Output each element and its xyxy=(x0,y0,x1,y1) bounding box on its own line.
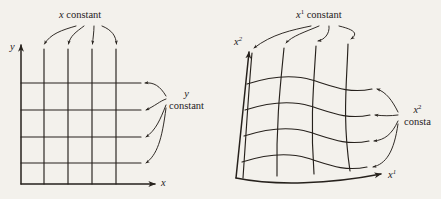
right-x1-constant-leaders xyxy=(254,26,355,48)
right-x1-axis xyxy=(236,174,381,183)
left-y-constant-label: y constant xyxy=(169,88,204,111)
figure-canvas: x constant y constant y x x1 constant x2… xyxy=(0,0,441,199)
right-x2-axis-superscript: 2 xyxy=(239,35,242,42)
right-x2-constant-superscript: 2 xyxy=(418,103,421,110)
right-x1-constant-label: x1 constant xyxy=(296,9,342,21)
right-x2-constant-label: x2 consta xyxy=(404,104,431,127)
right-x2-constant-word: consta xyxy=(404,116,431,128)
left-y-constant-leaders xyxy=(145,83,166,163)
left-y-constant-word: constant xyxy=(169,100,204,112)
left-vertical-gridlines xyxy=(44,49,116,184)
left-x-constant-label: x constant xyxy=(59,9,101,21)
right-curvilinear-diagram xyxy=(236,26,398,183)
left-y-constant-symbol: y xyxy=(184,88,189,99)
figure-vector-layer xyxy=(0,0,441,199)
right-x2-constant-leaders xyxy=(373,89,398,167)
right-x1-axis-label: x1 xyxy=(388,169,396,180)
left-horizontal-gridlines xyxy=(21,83,141,163)
left-x-axis-label: x xyxy=(161,177,166,188)
right-family2-gridlines xyxy=(242,77,372,169)
right-x1-constant-word: constant xyxy=(304,9,342,20)
right-x2-axis-label: x2 xyxy=(234,36,242,47)
right-x1-axis-superscript: 1 xyxy=(393,168,396,175)
left-y-axis-label: y xyxy=(10,41,15,52)
left-cartesian-diagram xyxy=(21,26,166,184)
left-x-constant-leaders xyxy=(45,26,117,44)
left-x-constant-word: constant xyxy=(64,9,102,20)
